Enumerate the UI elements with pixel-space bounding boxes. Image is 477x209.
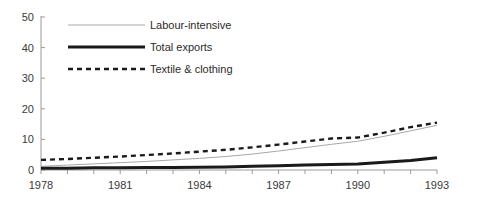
y-tick-label: 40 [22, 42, 34, 54]
legend-label-total-exports: Total exports [150, 41, 213, 53]
y-axis: 01020304050 [22, 11, 45, 176]
x-tick-label: 1981 [108, 179, 132, 191]
legend-label-textile-clothing: Textile & clothing [150, 63, 233, 75]
legend-label-labour-intensive: Labour-intensive [150, 19, 231, 31]
y-tick-label: 10 [22, 133, 34, 145]
line-chart: 01020304050 197819811984198719901993 Lab… [0, 0, 477, 209]
x-tick-label: 1990 [346, 179, 370, 191]
series-line-labour-intensive [41, 125, 437, 166]
series-line-textile-clothing [41, 123, 437, 160]
x-axis: 197819811984198719901993 [29, 170, 449, 191]
series-lines [41, 123, 437, 169]
series-line-total-exports [41, 158, 437, 168]
chart-container: 01020304050 197819811984198719901993 Lab… [0, 0, 477, 209]
x-tick-label: 1987 [266, 179, 290, 191]
y-tick-label: 20 [22, 103, 34, 115]
x-tick-label: 1984 [187, 179, 211, 191]
chart-legend: Labour-intensiveTotal exportsTextile & c… [68, 19, 233, 75]
y-tick-label: 50 [22, 11, 34, 23]
x-tick-label: 1978 [29, 179, 53, 191]
x-tick-label: 1993 [425, 179, 449, 191]
y-tick-label: 30 [22, 72, 34, 84]
y-tick-label: 0 [28, 164, 34, 176]
